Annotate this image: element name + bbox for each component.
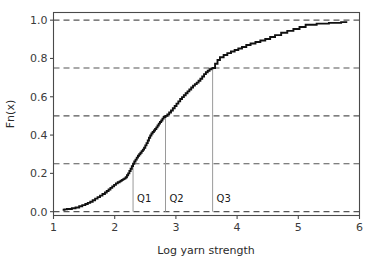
y-tick-label-0.6: 0.6 bbox=[30, 91, 48, 104]
x-tick-label-4: 4 bbox=[234, 221, 241, 234]
quartile-label-q2: Q2 bbox=[170, 193, 184, 204]
x-axis-label: Log yarn strength bbox=[157, 244, 255, 257]
x-tick-label-6: 6 bbox=[356, 221, 363, 234]
ecdf-plot-svg: 123456 0.00.20.40.60.81.0 Q1Q2Q3 Log yar… bbox=[0, 0, 374, 261]
quartile-label-q3: Q3 bbox=[217, 193, 231, 204]
x-tick-label-2: 2 bbox=[111, 221, 118, 234]
quartile-label-q1: Q1 bbox=[137, 193, 151, 204]
x-tick-label-5: 5 bbox=[295, 221, 302, 234]
x-tick-label-1: 1 bbox=[50, 221, 57, 234]
y-tick-label-0.2: 0.2 bbox=[30, 167, 48, 180]
y-tick-label-0.0: 0.0 bbox=[30, 206, 48, 219]
y-tick-label-1.0: 1.0 bbox=[30, 14, 48, 27]
y-tick-label-0.4: 0.4 bbox=[30, 129, 48, 142]
x-tick-label-3: 3 bbox=[172, 221, 179, 234]
ecdf-figure: 123456 0.00.20.40.60.81.0 Q1Q2Q3 Log yar… bbox=[0, 0, 374, 261]
y-axis-label: Fn(x) bbox=[4, 100, 17, 128]
y-tick-label-0.8: 0.8 bbox=[30, 52, 48, 65]
